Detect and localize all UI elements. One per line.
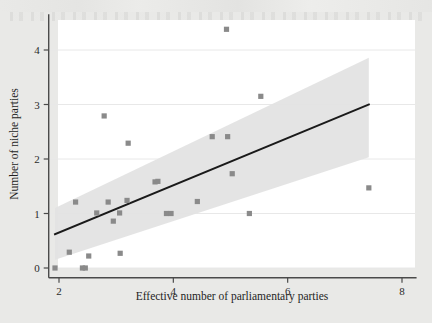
data-point [366, 185, 371, 190]
y-tick-label: 2 [34, 153, 40, 165]
data-point [230, 171, 235, 176]
y-tick-label: 1 [34, 208, 40, 220]
data-point [210, 134, 215, 139]
y-axis-ticks: 01234 [34, 44, 49, 274]
data-point [117, 210, 122, 215]
data-point [67, 250, 72, 255]
x-axis-title: Effective number of parliamentary partie… [136, 290, 329, 303]
data-point [155, 179, 160, 184]
data-point [164, 211, 169, 216]
data-point [94, 210, 99, 215]
data-point [168, 211, 173, 216]
y-tick-label: 3 [34, 99, 40, 111]
chart-svg: 2468 01234 Effective number of parliamen… [0, 0, 432, 323]
y-tick-label: 0 [34, 262, 40, 274]
data-point [118, 251, 123, 256]
data-point [86, 253, 91, 258]
y-tick-label: 4 [34, 44, 40, 56]
data-point [224, 27, 229, 32]
x-tick-label: 8 [399, 285, 405, 297]
scatter-figure: 2468 01234 Effective number of parliamen… [0, 0, 432, 323]
data-point [73, 199, 78, 204]
data-point [106, 199, 111, 204]
data-point [247, 211, 252, 216]
data-point [126, 141, 131, 146]
data-point [124, 198, 129, 203]
x-tick-label: 2 [56, 285, 62, 297]
data-point [83, 265, 88, 270]
data-point [52, 265, 57, 270]
data-point [111, 219, 116, 224]
y-axis-title: Number of niche parties [8, 88, 21, 200]
data-point [258, 94, 263, 99]
data-point [195, 199, 200, 204]
figure-page: 2468 01234 Effective number of parliamen… [0, 0, 432, 323]
data-point [225, 134, 230, 139]
data-point [102, 113, 107, 118]
